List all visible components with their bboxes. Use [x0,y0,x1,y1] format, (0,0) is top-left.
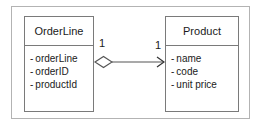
diagram-canvas: OrderLine -orderLine -orderID -productId… [0,0,261,129]
attribute-name: unit price [176,79,217,90]
attribute-name: orderLine [35,53,77,64]
attribute-name: code [176,66,198,77]
attribute-row: -unit price [171,78,238,91]
class-box-product[interactable]: Product -name -code -unit price [165,16,239,112]
attribute-row: -name [171,52,238,65]
multiplicity-source: 1 [99,38,105,49]
visibility-marker: - [30,52,33,65]
attribute-name: productId [35,79,77,90]
class-box-orderline[interactable]: OrderLine -orderLine -orderID -productId [24,16,94,112]
visibility-marker: - [30,78,33,91]
visibility-marker: - [171,78,174,91]
attribute-name: orderID [35,66,68,77]
class-title-product: Product [166,17,238,46]
attribute-row: -productId [30,78,93,91]
attribute-row: -code [171,65,238,78]
visibility-marker: - [171,65,174,78]
attribute-row: -orderID [30,65,93,78]
visibility-marker: - [30,65,33,78]
visibility-marker: - [171,52,174,65]
class-attributes-product: -name -code -unit price [166,46,238,91]
class-attributes-orderline: -orderLine -orderID -productId [25,46,93,91]
attribute-row: -orderLine [30,52,93,65]
multiplicity-target: 1 [155,40,161,51]
class-title-orderline: OrderLine [25,17,93,46]
attribute-name: name [176,53,201,64]
